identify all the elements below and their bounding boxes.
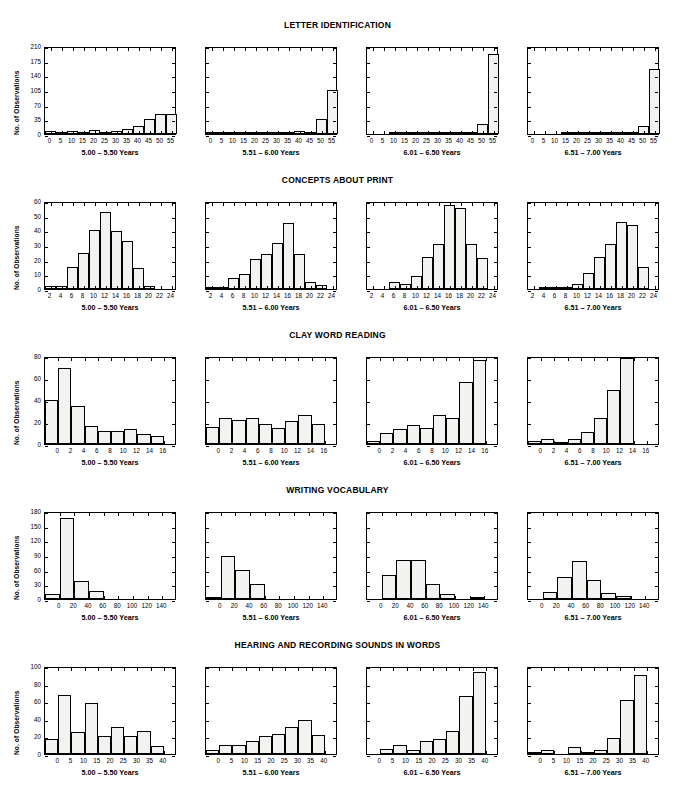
- x-tick-mark-top: [71, 668, 72, 671]
- x-tick-mark: [51, 286, 52, 289]
- y-tick-mark: [528, 721, 531, 722]
- x-tick-mark: [256, 286, 257, 289]
- x-tick-mark-top: [541, 668, 542, 671]
- x-tick-mark: [611, 286, 612, 289]
- y-tick-mark: [206, 446, 209, 447]
- x-tick-mark: [534, 131, 535, 134]
- x-tick-mark: [323, 596, 324, 599]
- x-tick-mark-top: [150, 203, 151, 206]
- histogram-bar: [60, 518, 75, 599]
- y-tick-mark-right: [333, 247, 336, 248]
- x-tick-mark-top: [58, 358, 59, 361]
- panel-caption: 5.51 – 6.00 Years: [205, 303, 337, 312]
- x-tick-mark: [278, 131, 279, 134]
- x-tick-mark-top: [450, 48, 451, 51]
- y-tick-mark-right: [494, 247, 497, 248]
- x-tick-mark-top: [420, 358, 421, 361]
- row-title: HEARING AND RECORDING SOUNDS IN WORDS: [0, 638, 675, 652]
- x-tick-mark: [396, 596, 397, 599]
- histogram-bar: [422, 257, 433, 289]
- histogram-bar: [285, 421, 298, 444]
- plot-area: [44, 357, 176, 445]
- panel-caption: 5.51 – 6.00 Years: [205, 148, 337, 157]
- y-tick-mark: [528, 92, 531, 93]
- y-tick-label: 40: [19, 717, 41, 723]
- y-tick-mark: [528, 77, 531, 78]
- histogram-bar: [620, 700, 633, 754]
- panel-caption: 6.51 – 7.00 Years: [527, 303, 659, 312]
- histogram-bar: [616, 596, 631, 599]
- histogram-bar: [433, 244, 444, 289]
- x-tick-mark-top: [578, 48, 579, 51]
- x-tick-mark: [172, 131, 173, 134]
- plot-area: [44, 47, 176, 135]
- y-tick-label: 140: [19, 73, 41, 79]
- x-tick-mark-top: [483, 203, 484, 206]
- x-tick-mark-top: [256, 48, 257, 51]
- x-tick-label: 40: [636, 758, 656, 764]
- y-tick-label: 40: [19, 398, 41, 404]
- y-tick-mark: [206, 601, 209, 602]
- y-tick-mark: [206, 513, 209, 514]
- x-tick-mark-top: [285, 358, 286, 361]
- x-tick-mark-top: [373, 48, 374, 51]
- x-tick-mark-top: [219, 358, 220, 361]
- x-tick-mark: [600, 286, 601, 289]
- y-tick-mark-right: [494, 703, 497, 704]
- y-tick-label: 175: [19, 59, 41, 65]
- y-tick-mark-right: [655, 92, 658, 93]
- histogram-bar: [111, 231, 122, 289]
- panel-caption: 6.01 – 6.50 Years: [366, 303, 498, 312]
- y-tick-mark: [206, 586, 209, 587]
- x-tick-mark-top: [455, 513, 456, 516]
- y-tick-mark-right: [655, 557, 658, 558]
- x-tick-mark-top: [148, 513, 149, 516]
- x-tick-mark-top: [393, 668, 394, 671]
- histogram-bar: [246, 418, 259, 444]
- histogram-bar: [272, 428, 285, 444]
- y-tick-label: 0: [19, 442, 41, 448]
- y-tick-mark: [45, 557, 48, 558]
- x-tick-mark: [137, 751, 138, 754]
- histogram-bar: [272, 734, 285, 754]
- y-tick-mark-right: [655, 77, 658, 78]
- y-tick-label: 120: [19, 538, 41, 544]
- y-tick-label: 0: [19, 132, 41, 138]
- panel-caption: 5.00 – 5.50 Years: [44, 613, 176, 622]
- x-tick-mark-top: [384, 48, 385, 51]
- x-tick-mark-top: [428, 48, 429, 51]
- y-tick-mark-right: [655, 668, 658, 669]
- y-tick-mark-right: [172, 586, 175, 587]
- x-tick-label: 24: [644, 293, 664, 299]
- x-tick-mark: [534, 286, 535, 289]
- histogram-bar: [151, 746, 164, 754]
- x-tick-mark-top: [567, 48, 568, 51]
- x-tick-mark: [581, 441, 582, 444]
- x-tick-mark-top: [439, 48, 440, 51]
- x-tick-mark: [428, 286, 429, 289]
- histogram-bar: [382, 575, 397, 599]
- x-tick-mark-top: [486, 668, 487, 671]
- histogram-bar: [71, 732, 84, 754]
- y-tick-mark-right: [494, 48, 497, 49]
- y-tick-mark: [367, 107, 370, 108]
- histogram-bar: [572, 561, 587, 599]
- y-tick-mark-right: [172, 572, 175, 573]
- y-tick-mark: [367, 77, 370, 78]
- x-tick-mark-top: [106, 48, 107, 51]
- x-tick-mark: [235, 596, 236, 599]
- x-tick-mark: [325, 751, 326, 754]
- x-tick-mark-top: [51, 203, 52, 206]
- x-tick-mark: [150, 286, 151, 289]
- histogram-row: LETTER IDENTIFICATION03570105140175210No…: [0, 18, 675, 173]
- x-tick-mark-top: [473, 668, 474, 671]
- plot-area: [527, 47, 659, 135]
- y-tick-mark-right: [172, 262, 175, 263]
- y-tick-mark-right: [172, 48, 175, 49]
- histogram-bar: [298, 415, 311, 444]
- y-tick-mark: [367, 446, 370, 447]
- y-tick-mark: [206, 276, 209, 277]
- x-tick-mark: [406, 286, 407, 289]
- panel-caption: 5.00 – 5.50 Years: [44, 148, 176, 157]
- x-tick-mark-top: [384, 203, 385, 206]
